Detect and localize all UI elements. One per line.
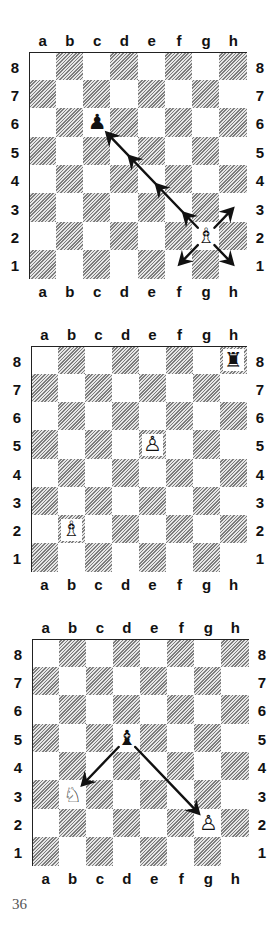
square-g7[interactable] [193,374,221,403]
square-c7[interactable] [85,374,113,403]
square-g6[interactable] [192,108,220,137]
square-a4[interactable] [33,752,59,781]
square-f7[interactable] [166,374,194,403]
square-h4[interactable] [221,752,249,781]
square-h8[interactable] [221,640,249,667]
square-d3[interactable] [112,487,140,516]
square-h5[interactable] [221,724,249,753]
square-f4[interactable] [165,165,193,194]
square-f6[interactable] [166,402,194,431]
square-e7[interactable] [140,667,168,696]
square-f5[interactable] [165,137,193,166]
square-e8[interactable] [140,640,168,667]
square-e6[interactable] [140,695,168,724]
square-f5[interactable] [167,724,195,753]
square-b1[interactable] [58,543,86,572]
square-d4[interactable] [112,459,140,488]
square-d1[interactable] [113,837,141,866]
square-d1[interactable] [110,250,138,279]
square-e1[interactable] [138,250,166,279]
square-e5[interactable] [138,137,166,166]
square-b1[interactable] [56,250,84,279]
square-b4[interactable] [59,752,87,781]
square-e8[interactable] [139,347,167,374]
square-c6[interactable] [85,402,113,431]
square-g8[interactable] [194,640,222,667]
square-d8[interactable] [112,347,140,374]
square-d7[interactable] [113,667,141,696]
square-e6[interactable] [139,402,167,431]
square-g5[interactable] [192,137,220,166]
square-c3[interactable] [83,193,111,222]
square-b7[interactable] [58,374,86,403]
square-f5[interactable] [166,430,194,459]
square-h8[interactable] [219,53,247,80]
square-c8[interactable] [85,347,113,374]
square-h5[interactable] [220,430,248,459]
square-c4[interactable] [85,459,113,488]
square-f2[interactable] [166,515,194,544]
black-pawn-c6[interactable]: ♟ [84,109,111,137]
square-g4[interactable] [192,165,220,194]
square-e3[interactable] [138,193,166,222]
square-g5[interactable] [193,430,221,459]
square-f7[interactable] [165,80,193,109]
square-f4[interactable] [166,459,194,488]
square-e4[interactable] [139,459,167,488]
square-e7[interactable] [138,80,166,109]
square-b6[interactable] [59,695,87,724]
square-e1[interactable] [139,543,167,572]
square-e6[interactable] [138,108,166,137]
square-f3[interactable] [165,193,193,222]
square-a6[interactable] [30,108,56,137]
square-f2[interactable] [167,809,195,838]
square-b2[interactable] [59,809,87,838]
square-g3[interactable] [194,780,222,809]
square-a5[interactable] [33,724,59,753]
black-rook-h8[interactable]: ♜ [220,346,247,374]
square-a3[interactable] [30,193,56,222]
square-f6[interactable] [165,108,193,137]
square-d1[interactable] [112,543,140,572]
square-g8[interactable] [193,347,221,374]
square-c3[interactable] [86,780,114,809]
square-e1[interactable] [140,837,168,866]
square-c2[interactable] [85,515,113,544]
square-e8[interactable] [138,53,166,80]
square-a6[interactable] [33,695,59,724]
square-f7[interactable] [167,667,195,696]
square-h3[interactable] [221,780,249,809]
square-d7[interactable] [110,80,138,109]
square-f1[interactable] [167,837,195,866]
square-c8[interactable] [83,53,111,80]
square-c1[interactable] [85,543,113,572]
square-e5[interactable] [140,724,168,753]
square-c4[interactable] [86,752,114,781]
square-b7[interactable] [56,80,84,109]
square-d5[interactable] [112,430,140,459]
square-d6[interactable] [110,108,138,137]
square-h7[interactable] [219,80,247,109]
square-e2[interactable] [139,515,167,544]
square-d4[interactable] [113,752,141,781]
white-pawn-g2[interactable]: ♙ [195,809,222,837]
square-b2[interactable] [56,222,84,251]
square-a1[interactable] [32,543,58,572]
square-d2[interactable] [113,809,141,838]
square-h7[interactable] [221,667,249,696]
square-d8[interactable] [110,53,138,80]
square-b5[interactable] [56,137,84,166]
square-g7[interactable] [192,80,220,109]
square-c7[interactable] [83,80,111,109]
square-c8[interactable] [86,640,114,667]
square-d7[interactable] [112,374,140,403]
square-f3[interactable] [167,780,195,809]
square-f2[interactable] [165,222,193,251]
square-e2[interactable] [138,222,166,251]
square-e2[interactable] [140,809,168,838]
square-d2[interactable] [110,222,138,251]
square-a4[interactable] [30,165,56,194]
white-bishop-g2[interactable]: ♗ [193,222,220,250]
square-e4[interactable] [138,165,166,194]
square-b5[interactable] [59,724,87,753]
